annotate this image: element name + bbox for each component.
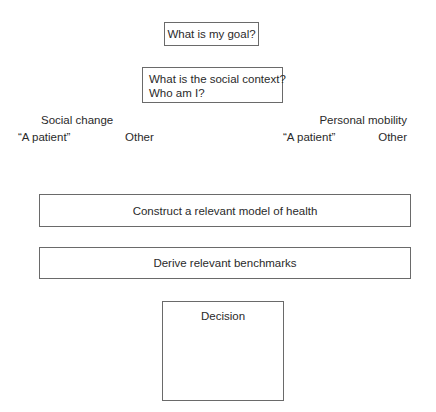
context-line-1: What is the social context? [149,72,282,86]
branch-social-change: Social change [41,113,113,127]
goal-box: What is my goal? [164,22,259,46]
model-text: Construct a relevant model of health [133,205,318,217]
model-of-health-box: Construct a relevant model of health [39,194,411,227]
option-other-left: Other [125,130,154,144]
decision-box: Decision [162,301,284,401]
social-context-box: What is the social context? Who am I? [142,67,283,103]
context-line-2: Who am I? [149,86,282,100]
option-a-patient-right: “A patient” [283,130,335,144]
goal-text: What is my goal? [167,28,255,40]
benchmarks-text: Derive relevant benchmarks [153,257,296,269]
branch-personal-mobility: Personal mobility [319,113,407,127]
benchmarks-box: Derive relevant benchmarks [39,247,411,279]
option-a-patient-left: “A patient” [18,130,70,144]
option-other-right: Other [378,130,407,144]
decision-title: Decision [163,310,283,322]
